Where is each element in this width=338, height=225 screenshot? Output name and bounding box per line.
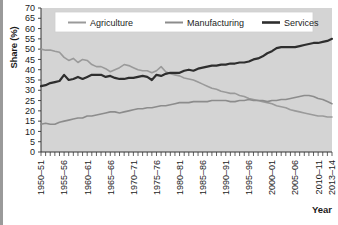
x-axis-ticks: 1950–511955–561960–611965–661970–711975–… xyxy=(36,152,337,195)
y-tick-label: 10 xyxy=(25,127,35,137)
y-tick-label: 5 xyxy=(30,137,35,147)
x-tick-label: 1955–56 xyxy=(59,160,69,195)
y-tick-label: 70 xyxy=(25,3,35,13)
x-tick-label: 1960–61 xyxy=(83,160,93,195)
x-tick-label: 1990–91 xyxy=(221,160,231,195)
legend-label-services: Services xyxy=(284,18,319,28)
line-chart-plot: 0510152025303540455055606570 1950–511955… xyxy=(0,0,338,225)
x-tick-label: 1985–86 xyxy=(198,160,208,195)
x-tick-label: 2013–14 xyxy=(327,160,337,195)
y-tick-label: 50 xyxy=(25,44,35,54)
x-tick-label: 1980–81 xyxy=(175,160,185,195)
y-tick-label: 60 xyxy=(25,24,35,34)
x-tick-label: 2000–01 xyxy=(267,160,277,195)
x-tick-label: 1970–71 xyxy=(129,160,139,195)
y-axis-ticks: 0510152025303540455055606570 xyxy=(25,3,41,157)
x-tick-label: 1995–96 xyxy=(244,160,254,195)
x-tick-label: 1975–76 xyxy=(152,160,162,195)
y-tick-label: 20 xyxy=(25,106,35,116)
y-tick-label: 40 xyxy=(25,65,35,75)
y-tick-label: 15 xyxy=(25,116,35,126)
x-tick-label: 2005–06 xyxy=(290,160,300,195)
y-tick-label: 65 xyxy=(25,13,35,23)
y-tick-label: 55 xyxy=(25,34,35,44)
legend-label-manufacturing: Manufacturing xyxy=(187,18,244,28)
chart-figure: Share (%) Year 0510152025303540455055606… xyxy=(0,0,338,225)
x-tick-label: 1950–51 xyxy=(36,160,46,195)
legend-label-agriculture: Agriculture xyxy=(90,18,133,28)
x-tick-label: 1965–66 xyxy=(106,160,116,195)
y-tick-label: 45 xyxy=(25,55,35,65)
y-tick-label: 0 xyxy=(30,147,35,157)
x-tick-label: 2010–11 xyxy=(314,160,324,194)
y-tick-label: 35 xyxy=(25,75,35,85)
y-tick-label: 30 xyxy=(25,85,35,95)
y-tick-label: 25 xyxy=(25,96,35,106)
